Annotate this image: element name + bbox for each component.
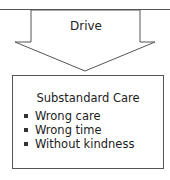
list-item: Without kindness bbox=[22, 137, 134, 151]
list-item: Wrong time bbox=[22, 123, 134, 137]
list-item-label: Wrong time bbox=[35, 123, 102, 137]
list-item-label: Wrong care bbox=[35, 109, 101, 123]
list-item-label: Without kindness bbox=[35, 137, 134, 151]
box-title: Substandard Care bbox=[12, 91, 164, 105]
arrow-label: Drive bbox=[31, 19, 141, 33]
bullet-icon bbox=[24, 142, 28, 146]
bullet-icon bbox=[24, 114, 28, 118]
box-bullet-list: Wrong care Wrong time Without kindness bbox=[22, 109, 134, 151]
bullet-icon bbox=[24, 128, 28, 132]
list-item: Wrong care bbox=[22, 109, 134, 123]
